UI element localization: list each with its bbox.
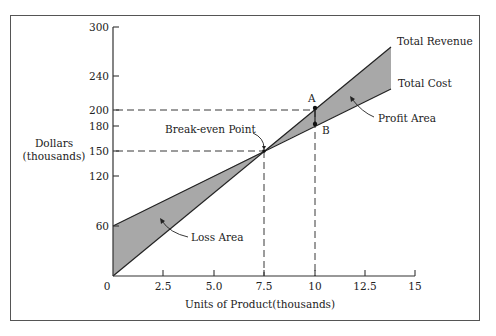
x-tick-10: 10 bbox=[308, 280, 321, 292]
y-tick-120: 120 bbox=[89, 170, 109, 182]
x-tick-5: 5.0 bbox=[206, 280, 223, 292]
y-tick-300: 300 bbox=[89, 21, 109, 33]
point-b-marker bbox=[313, 122, 317, 126]
y-tick-60: 60 bbox=[96, 220, 109, 232]
loss-area-label: Loss Area bbox=[191, 231, 244, 243]
break-even-label: Break-even Point bbox=[165, 123, 256, 135]
y-tick-150: 150 bbox=[89, 145, 109, 157]
x-tick-2.5: 2.5 bbox=[155, 280, 172, 292]
total-cost-label: Total Cost bbox=[398, 77, 452, 89]
breakeven-chart: 300 240 200 180 150 120 60 0 2.5 5.0 7.5… bbox=[0, 0, 496, 336]
y-axis-title-line1: Dollars bbox=[35, 137, 73, 149]
x-tick-7.5: 7.5 bbox=[256, 280, 273, 292]
y-axis-title-line2: (thousands) bbox=[23, 150, 86, 162]
total-revenue-label: Total Revenue bbox=[397, 35, 473, 47]
x-tick-15: 15 bbox=[408, 280, 421, 292]
total-revenue-line bbox=[113, 47, 391, 276]
point-a-marker bbox=[313, 106, 317, 110]
profit-area-label: Profit Area bbox=[378, 112, 436, 124]
x-tick-0: 0 bbox=[104, 280, 111, 292]
y-tick-240: 240 bbox=[89, 70, 109, 82]
point-b-label: B bbox=[322, 124, 330, 136]
point-a-label: A bbox=[307, 92, 316, 104]
x-tick-12.5: 12.5 bbox=[353, 280, 376, 292]
x-axis-title: Units of Product(thousands) bbox=[185, 298, 335, 310]
y-tick-200: 200 bbox=[89, 104, 109, 116]
y-tick-180: 180 bbox=[89, 120, 109, 132]
break-even-arrow bbox=[253, 133, 264, 148]
